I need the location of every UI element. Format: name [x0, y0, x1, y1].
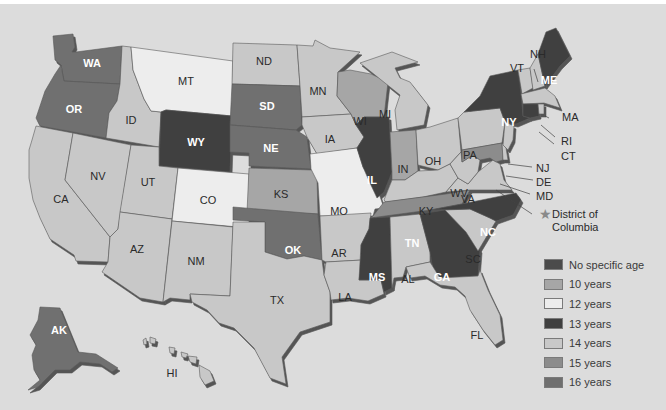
- callout-md: MD: [536, 190, 553, 202]
- state-label-ak: AK: [51, 324, 67, 336]
- state-label-ok: OK: [285, 244, 302, 256]
- state-label-ny: NY: [501, 116, 517, 128]
- state-label-tn: TN: [405, 237, 420, 249]
- legend-item-14: 14 years: [544, 333, 664, 353]
- state-label-az: AZ: [130, 243, 144, 255]
- callout-dc-line2: Columbia: [552, 221, 599, 233]
- state-label-ga: GA: [434, 271, 451, 283]
- legend-item-none: No specific age: [544, 255, 664, 275]
- legend-label: 14 years: [569, 337, 611, 349]
- callout-ri: RI: [561, 135, 572, 147]
- dc-star-icon: ★: [539, 206, 552, 222]
- legend-swatch: [544, 318, 563, 329]
- state-label-co: CO: [200, 194, 217, 206]
- state-label-ky: KY: [419, 205, 434, 217]
- state-ri[interactable]: [538, 104, 544, 114]
- state-label-sd: SD: [259, 100, 274, 112]
- state-label-ks: KS: [274, 188, 289, 200]
- state-label-ut: UT: [141, 176, 156, 188]
- state-label-mt: MT: [178, 75, 194, 87]
- callout-ct: CT: [561, 150, 576, 162]
- legend: No specific age 10 years 12 years 13 yea…: [544, 255, 664, 392]
- legend-item-16: 16 years: [544, 373, 664, 393]
- legend-label: 15 years: [569, 357, 611, 369]
- state-ct[interactable]: [523, 104, 539, 118]
- state-label-la: LA: [338, 291, 352, 303]
- state-label-mo: MO: [330, 205, 348, 217]
- state-label-nd: ND: [256, 55, 272, 67]
- state-label-ne: NE: [263, 142, 278, 154]
- legend-swatch: [544, 377, 563, 388]
- callout-vt: VT: [510, 62, 524, 74]
- callout-ma: MA: [562, 111, 579, 123]
- legend-item-12: 12 years: [544, 294, 664, 314]
- state-label-in: IN: [398, 163, 409, 175]
- state-label-ar: AR: [331, 247, 346, 259]
- state-label-pa: PA: [463, 149, 478, 161]
- state-label-fl: FL: [471, 329, 484, 341]
- state-label-id: ID: [126, 114, 137, 126]
- callout-nh: NH: [530, 48, 546, 60]
- state-label-tx: TX: [270, 294, 285, 306]
- state-label-ia: IA: [325, 133, 336, 145]
- legend-swatch: [544, 357, 563, 368]
- state-label-va: VA: [461, 193, 476, 205]
- legend-label: No specific age: [569, 259, 644, 271]
- state-label-oh: OH: [425, 155, 442, 167]
- state-label-nm: NM: [187, 255, 204, 267]
- state-label-wi: WI: [353, 115, 366, 127]
- state-label-sc: SC: [465, 253, 480, 265]
- state-label-nc: NC: [480, 226, 496, 238]
- state-label-hi: HI: [167, 367, 178, 379]
- state-hi[interactable]: [143, 337, 214, 385]
- state-label-or: OR: [66, 103, 83, 115]
- state-label-ms: MS: [369, 271, 386, 283]
- state-ak[interactable]: [28, 307, 118, 390]
- legend-swatch: [544, 259, 563, 270]
- map-canvas: WAORCANVIDMTWYUTAZCONMNDSDNEKSOKTXMNIAMO…: [0, 4, 666, 410]
- legend-label: 12 years: [569, 298, 611, 310]
- legend-label: 13 years: [569, 318, 611, 330]
- state-label-wy: WY: [187, 136, 205, 148]
- state-label-nv: NV: [90, 170, 106, 182]
- callout-dc-line1: District of: [552, 208, 599, 220]
- state-label-mi: MI: [379, 108, 391, 120]
- legend-label: 10 years: [569, 278, 611, 290]
- callout-de: DE: [536, 176, 551, 188]
- legend-swatch: [544, 338, 563, 349]
- state-label-me: ME: [541, 74, 558, 86]
- state-label-wa: WA: [83, 57, 101, 69]
- state-label-ca: CA: [53, 193, 69, 205]
- callout-nj: NJ: [536, 162, 549, 174]
- state-label-al: AL: [401, 273, 414, 285]
- state-label-il: IL: [367, 174, 377, 186]
- state-label-mn: MN: [309, 85, 326, 97]
- legend-item-10: 10 years: [544, 275, 664, 295]
- legend-item-13: 13 years: [544, 314, 664, 334]
- legend-item-15: 15 years: [544, 353, 664, 373]
- legend-swatch: [544, 298, 563, 309]
- legend-label: 16 years: [569, 376, 611, 388]
- legend-swatch: [544, 279, 563, 290]
